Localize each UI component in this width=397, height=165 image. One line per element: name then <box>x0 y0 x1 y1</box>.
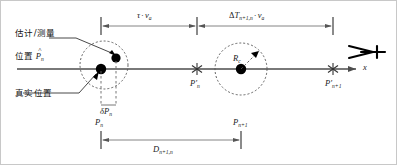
true-position-label: 真实位置 <box>15 89 53 98</box>
p-n-label: Pn <box>95 118 103 127</box>
estimated-position-prefix: 位置 <box>15 51 34 61</box>
dist-arrow-left <box>102 138 109 142</box>
delta-T-sub: n+1,n <box>239 15 253 21</box>
leader-arrow-true <box>93 71 99 80</box>
radius-sub: c <box>238 58 240 64</box>
estimated-position-symbol: ^Pn <box>36 52 44 61</box>
dim-arrow-deltaT-right <box>325 24 332 28</box>
dim-arrow-tau-left <box>102 24 109 28</box>
dim-arrow-deltaT-left <box>198 24 205 28</box>
dim-arrow-tau-right <box>189 24 196 28</box>
dimension-tau-va-label: τ·va <box>137 11 151 20</box>
p-prime-n-sub: n <box>197 83 200 89</box>
delta-p-label: δPn <box>100 107 112 116</box>
diagram-figure: 估计/测量 位置^Pn 真实位置 τ·va ΔTn+1,n·va δPn Pn … <box>0 0 397 165</box>
p-n-plus-1-label: Pn+1 <box>233 118 248 127</box>
p-prime-n1-sub: n+1 <box>332 83 341 89</box>
distance-sub: n+1,n <box>159 149 173 155</box>
delta-v-sub: a <box>261 15 264 21</box>
dist-arrow-right <box>233 138 240 142</box>
radius-arrowhead <box>251 51 259 58</box>
p-prime-n-label: P′n <box>190 79 200 88</box>
delta-p-sub: n <box>109 111 112 117</box>
estimated-position-label-line2: 位置^Pn <box>15 46 44 62</box>
dimension-delta-t-label: ΔTn+1,n·va <box>229 11 264 20</box>
distance-label: Dn+1,n <box>153 145 173 154</box>
aircraft-icon <box>349 46 385 58</box>
p-prime-n-plus-1-label: P′n+1 <box>325 79 341 88</box>
estimated-position-label-line1: 估计/测量 <box>15 29 56 38</box>
axis-label-x: x <box>363 63 367 72</box>
axis-arrow-icon <box>348 66 356 72</box>
radius-label: Rc <box>233 54 241 63</box>
p-n1-sub: n+1 <box>238 122 247 128</box>
leader-estimated-label <box>49 38 114 54</box>
p-n-sub: n <box>100 122 103 128</box>
hat-accent-icon: ^ <box>38 47 41 54</box>
estimated-symbol-sub: n <box>41 56 44 62</box>
